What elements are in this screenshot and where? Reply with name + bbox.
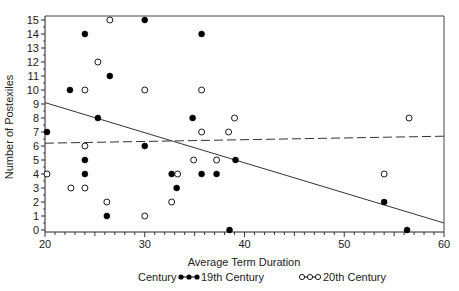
data-point-20th-century <box>191 157 197 163</box>
data-point-19th-century <box>169 171 175 177</box>
data-point-20th-century <box>232 115 238 121</box>
x-tick-label: 40 <box>238 238 250 250</box>
data-point-19th-century <box>142 17 148 23</box>
x-tick-label: 20 <box>39 238 51 250</box>
y-axis-label: Number of Postexiles <box>3 74 15 179</box>
data-point-19th-century <box>199 171 205 177</box>
data-point-19th-century <box>44 129 50 135</box>
data-point-20th-century <box>95 59 101 65</box>
legend-title: Century <box>138 271 177 283</box>
y-tick-label: 9 <box>33 98 39 110</box>
y-tick-label: 15 <box>27 14 39 26</box>
data-point-20th-century <box>214 157 220 163</box>
data-point-20th-century <box>82 87 88 93</box>
data-point-19th-century <box>82 157 88 163</box>
data-point-19th-century <box>95 115 101 121</box>
y-tick-label: 13 <box>27 42 39 54</box>
y-tick-label: 3 <box>33 182 39 194</box>
y-tick-label: 14 <box>27 28 39 40</box>
data-point-19th-century <box>190 115 196 121</box>
y-tick-label: 12 <box>27 56 39 68</box>
data-point-19th-century <box>82 31 88 37</box>
data-point-19th-century <box>82 171 88 177</box>
x-tick-label: 50 <box>338 238 350 250</box>
y-tick-label: 5 <box>33 154 39 166</box>
data-point-20th-century <box>104 199 110 205</box>
data-point-20th-century <box>199 87 205 93</box>
data-point-19th-century <box>104 213 110 219</box>
data-point-19th-century <box>142 143 148 149</box>
data-point-19th-century <box>381 199 387 205</box>
y-tick-label: 10 <box>27 84 39 96</box>
y-tick-label: 11 <box>28 70 39 82</box>
x-tick-label: 60 <box>438 238 450 250</box>
data-point-20th-century <box>44 171 50 177</box>
y-tick-label: 6 <box>33 140 39 152</box>
y-tick-label: 7 <box>33 126 39 138</box>
data-point-20th-century <box>406 115 412 121</box>
data-point-19th-century <box>199 31 205 37</box>
data-point-19th-century <box>67 87 73 93</box>
data-point-19th-century <box>404 227 410 233</box>
data-point-20th-century <box>82 143 88 149</box>
y-axis: 0123456789101112131415 <box>27 14 45 236</box>
data-point-19th-century <box>233 157 239 163</box>
data-points <box>44 17 412 233</box>
y-tick-label: 2 <box>33 196 39 208</box>
y-tick-label: 1 <box>33 210 39 222</box>
scatter-chart: 0123456789101112131415 2030405060 Number… <box>0 0 459 291</box>
legend-label-20th-century: 20th Century <box>323 271 386 283</box>
trend-line-20th-century <box>45 136 444 143</box>
data-point-20th-century <box>175 171 181 177</box>
x-tick-label: 30 <box>139 238 151 250</box>
data-point-20th-century <box>142 213 148 219</box>
x-axis: 2030405060 <box>39 232 450 250</box>
data-point-20th-century <box>142 87 148 93</box>
data-point-20th-century <box>68 185 74 191</box>
data-point-20th-century <box>82 185 88 191</box>
data-point-20th-century <box>107 17 113 23</box>
data-point-19th-century <box>174 185 180 191</box>
legend-label-19th-century: 19th Century <box>201 271 264 283</box>
data-point-20th-century <box>381 171 387 177</box>
data-point-20th-century <box>226 129 232 135</box>
data-point-20th-century <box>199 129 205 135</box>
y-tick-label: 4 <box>33 168 39 180</box>
legend: Century 19th Century 20th Century <box>138 271 386 283</box>
legend-marker-20th-century <box>299 274 320 279</box>
data-point-19th-century <box>227 227 233 233</box>
data-point-19th-century <box>214 171 220 177</box>
y-tick-label: 0 <box>33 224 39 236</box>
x-axis-label: Average Term Duration <box>188 256 301 268</box>
data-point-19th-century <box>107 73 113 79</box>
y-tick-label: 8 <box>33 112 39 124</box>
data-point-20th-century <box>169 199 175 205</box>
legend-marker-19th-century <box>178 274 199 279</box>
